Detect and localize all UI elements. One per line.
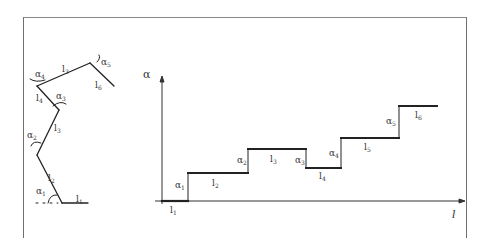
svg-text:α5: α5 xyxy=(101,57,111,68)
svg-text:l4: l4 xyxy=(319,171,326,182)
svg-text:α5: α5 xyxy=(386,116,396,127)
svg-text:l3: l3 xyxy=(270,154,277,165)
svg-text:α1: α1 xyxy=(175,180,185,191)
angle-arc-a2 xyxy=(31,142,41,146)
svg-text:l4: l4 xyxy=(36,93,43,104)
x-axis-label: l xyxy=(452,208,456,221)
svg-text:α4: α4 xyxy=(35,69,45,80)
svg-text:l1: l1 xyxy=(76,194,83,205)
svg-text:l2: l2 xyxy=(48,173,55,184)
angle-arc-a5 xyxy=(97,55,100,62)
y-axis-arrow-icon xyxy=(160,76,164,82)
svg-text:l6: l6 xyxy=(415,110,422,121)
svg-text:l3: l3 xyxy=(54,123,61,134)
svg-text:α1: α1 xyxy=(36,186,46,197)
svg-text:α2: α2 xyxy=(237,155,247,166)
svg-text:α2: α2 xyxy=(27,130,37,141)
step-plot-axes xyxy=(155,76,465,204)
svg-text:l3: l3 xyxy=(62,64,69,75)
linkage-labels: l1 l2 l3 l4 l3 l6 α1 α2 α3 α4 α5 xyxy=(27,57,111,205)
svg-text:l2: l2 xyxy=(212,178,219,189)
svg-text:l1: l1 xyxy=(170,205,177,216)
diagram-canvas: l1 l2 l3 l4 l3 l6 α1 α2 α3 α4 α5 α l l1 … xyxy=(0,0,488,238)
svg-text:l5: l5 xyxy=(364,142,371,153)
svg-text:α3: α3 xyxy=(295,155,305,166)
angle-arc-a1 xyxy=(48,195,57,203)
svg-text:l6: l6 xyxy=(95,80,102,91)
svg-text:α3: α3 xyxy=(56,91,66,102)
y-axis-label: α xyxy=(143,68,151,81)
x-axis-arrow-icon xyxy=(459,199,465,203)
svg-text:α4: α4 xyxy=(329,148,339,159)
step-plot-labels: l1 l2 l3 l4 l5 l6 α1 α2 α3 α4 α5 xyxy=(170,110,422,216)
